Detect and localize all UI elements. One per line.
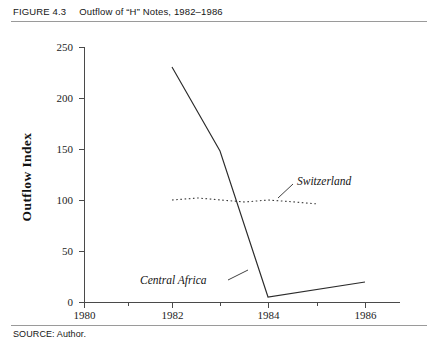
y-tick-label-250: 250 [57,41,74,53]
x-tick-label-1980: 1980 [74,309,97,321]
x-minor-tick-group [129,303,318,307]
figure-number: FIGURE 4.3 [13,6,66,17]
y-tick-group [79,48,85,303]
x-tick-label-1982: 1982 [162,309,184,321]
footer-divider [11,325,427,326]
annotation-switzerland: Switzerland [297,175,352,187]
central-africa-leader-line [228,270,248,280]
y-axis-title: Outflow Index [19,133,34,222]
y-tick-label-150: 150 [57,143,74,155]
plot-area: 250 200 150 100 50 0 Outflow Index 1 [0,22,438,322]
y-tick-label-50: 50 [62,245,74,257]
y-tick-label-200: 200 [57,92,74,104]
x-tick-group [85,303,366,309]
y-tick-label-0: 0 [68,296,74,308]
figure-source: SOURCE: Author. [13,329,86,339]
figure-header: FIGURE 4.3 Outflow of “H” Notes, 1982–19… [0,0,438,22]
y-tick-label-100: 100 [57,194,74,206]
switzerland-leader-line [278,184,293,198]
figure-container: FIGURE 4.3 Outflow of “H” Notes, 1982–19… [0,0,438,343]
annotation-central-africa: Central Africa [140,274,207,287]
figure-caption: Outflow of “H” Notes, 1982–1986 [79,6,223,17]
series-line-switzerland [172,198,318,204]
x-tick-label-1986: 1986 [355,309,378,321]
x-tick-label-1984: 1984 [258,309,281,321]
